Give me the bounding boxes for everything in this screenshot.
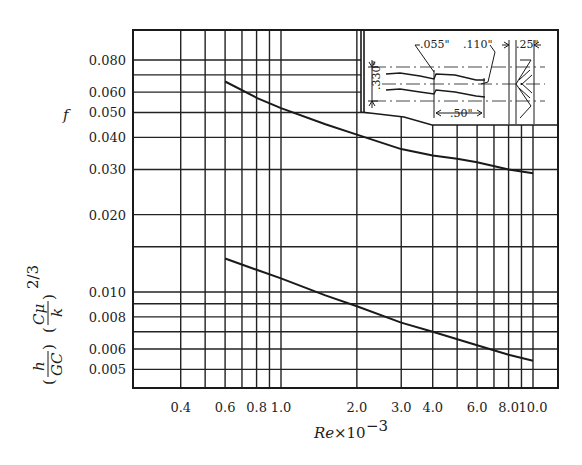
chart: 0.0800.0600.0500.0400.0300.0200.0100.008… — [0, 0, 582, 465]
svg-text:0.010: 0.010 — [89, 285, 126, 300]
dim-330: .330" — [370, 60, 383, 90]
svg-text:GC: GC — [48, 352, 66, 376]
svg-text:0.008: 0.008 — [89, 310, 126, 325]
svg-text:4.0: 4.0 — [422, 400, 443, 415]
svg-text:0.005: 0.005 — [89, 362, 126, 377]
svg-text:2.0: 2.0 — [347, 400, 368, 415]
svg-text:0.080: 0.080 — [89, 53, 126, 68]
svg-text:0.050: 0.050 — [89, 105, 126, 120]
svg-text:Cμ: Cμ — [30, 304, 48, 325]
svg-text:0.040: 0.040 — [89, 130, 126, 145]
svg-text:10.0: 10.0 — [519, 400, 548, 415]
svg-text:(: ( — [40, 379, 58, 385]
j-factor-curve — [225, 259, 533, 361]
svg-text:8.0: 8.0 — [498, 400, 519, 415]
dim-110: .110" — [463, 38, 493, 51]
svg-text:0.6: 0.6 — [215, 400, 236, 415]
svg-text:0.006: 0.006 — [89, 342, 126, 357]
y-label-lower: ( h GC ) ( Cμ k ) 2/3 — [24, 265, 66, 385]
dim-055: .055" — [420, 38, 450, 51]
svg-text:k: k — [48, 308, 66, 317]
svg-text:h: h — [30, 361, 48, 371]
svg-text:6.0: 6.0 — [467, 400, 488, 415]
svg-text:): ) — [40, 294, 58, 300]
svg-text:1.0: 1.0 — [271, 400, 292, 415]
svg-text:0.020: 0.020 — [89, 208, 126, 223]
svg-text:0.030: 0.030 — [89, 162, 126, 177]
x-axis-label: Re ×10 −3 — [313, 417, 388, 442]
y-label-upper: f — [62, 106, 71, 124]
svg-text:×10: ×10 — [334, 424, 366, 442]
svg-text:Re: Re — [313, 424, 334, 442]
svg-text:0.4: 0.4 — [170, 400, 191, 415]
svg-text:0.8: 0.8 — [246, 400, 267, 415]
svg-text:(: ( — [40, 327, 58, 333]
svg-text:): ) — [40, 344, 58, 350]
dim-50: .50" — [450, 107, 473, 120]
dim-25: .25" — [516, 38, 539, 51]
svg-text:0.060: 0.060 — [89, 85, 126, 100]
x-tick-labels: 0.40.60.81.02.03.04.06.08.010.0 — [170, 400, 547, 415]
svg-text:3.0: 3.0 — [391, 400, 412, 415]
svg-text:2/3: 2/3 — [24, 265, 42, 289]
y-tick-labels: 0.0800.0600.0500.0400.0300.0200.0100.008… — [89, 53, 126, 377]
svg-text:−3: −3 — [366, 417, 388, 435]
inset-diagram: .330" .055" .110" .50" .25" — [361, 31, 557, 125]
